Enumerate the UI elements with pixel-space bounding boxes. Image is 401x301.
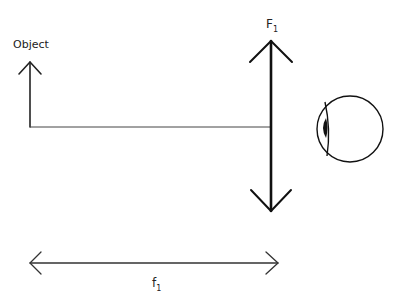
lens-label: F1	[266, 17, 278, 34]
lens-label-subscript: 1	[273, 25, 278, 34]
eye-lens-icon	[323, 118, 328, 138]
focal-length-arrow	[30, 252, 278, 274]
eye-icon	[317, 96, 383, 162]
focal-length-label: f1	[152, 276, 161, 293]
magnifier-diagram: Object F1 f1	[0, 0, 401, 301]
focal-label-subscript: 1	[156, 284, 161, 293]
object-arrow	[19, 62, 41, 127]
converging-lens	[250, 41, 292, 211]
object-label: Object	[13, 38, 50, 51]
